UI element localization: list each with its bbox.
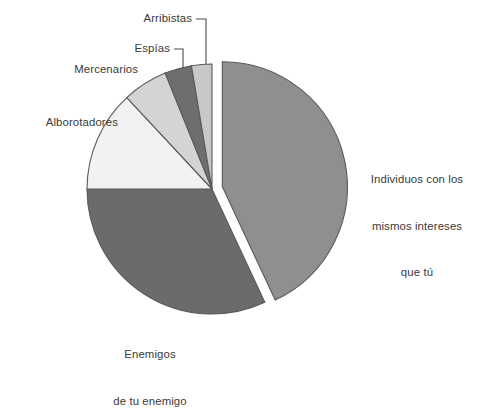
pie-label-enemigos-line1: Enemigos: [86, 347, 214, 363]
pie-label-alborotadores: Alborotadores: [8, 115, 118, 131]
pie-label-espias: Espías: [80, 41, 170, 57]
leader-line-arribistas: [196, 19, 206, 64]
pie-label-enemigos: Enemigos de tu enemigo: [86, 316, 214, 411]
pie-label-individuos: Individuos con los mismos intereses que …: [358, 141, 476, 312]
pie-label-individuos-line2: mismos intereses: [358, 219, 476, 235]
leader-line-espias: [174, 49, 183, 68]
pie-label-enemigos-line2: de tu enemigo: [86, 394, 214, 410]
pie-label-individuos-line1: Individuos con los: [358, 172, 476, 188]
pie-label-mercenarios: Mercenarios: [34, 62, 138, 78]
pie-label-individuos-line3: que tú: [358, 265, 476, 281]
pie-label-arribistas: Arribistas: [96, 11, 192, 27]
